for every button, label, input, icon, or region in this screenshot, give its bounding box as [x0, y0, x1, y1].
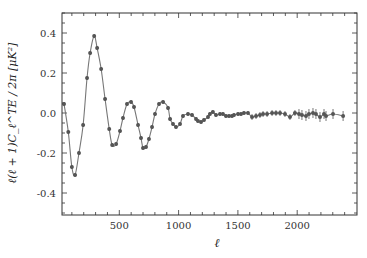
data-point — [77, 151, 81, 155]
data-point — [166, 106, 170, 110]
data-point — [168, 117, 172, 121]
y-tick-label: 0.4 — [40, 28, 56, 39]
data-point — [261, 112, 265, 116]
y-tick-labels: 0.40.20.0-0.2-0.4 — [37, 28, 56, 199]
data-point — [132, 105, 136, 109]
data-point — [307, 112, 311, 116]
data-point — [153, 112, 157, 116]
data-point — [250, 115, 254, 119]
y-tick-label: -0.2 — [37, 148, 56, 159]
data-point — [178, 122, 182, 126]
te-power-spectrum-chart: 0.40.20.0-0.2-0.4 500100015002000 ℓ ℓ(ℓ … — [0, 0, 367, 258]
data-point — [341, 114, 345, 118]
data-point — [186, 112, 190, 116]
data-point — [246, 111, 250, 115]
data-point — [314, 112, 318, 116]
data-point — [136, 123, 140, 127]
x-tick-label: 1500 — [225, 220, 250, 231]
data-point — [81, 123, 85, 127]
data-point — [99, 67, 103, 71]
data-point — [150, 125, 154, 129]
y-tick-label: 0.0 — [40, 108, 56, 119]
data-point — [62, 102, 66, 106]
data-point — [147, 137, 151, 141]
data-point — [278, 111, 282, 115]
data-point — [324, 114, 328, 118]
x-tick-label: 1000 — [166, 220, 191, 231]
data-point — [92, 34, 96, 38]
y-tick-label: -0.4 — [37, 188, 56, 199]
data-point — [73, 173, 77, 177]
data-point — [139, 136, 143, 140]
data-point — [214, 113, 218, 117]
data-point — [129, 100, 133, 104]
data-point — [118, 129, 122, 133]
x-tick-label: 500 — [110, 220, 129, 231]
data-point — [265, 112, 269, 116]
data-point — [174, 125, 178, 129]
data-point — [254, 114, 258, 118]
data-point — [125, 102, 129, 106]
data-point — [85, 76, 89, 80]
y-tick-label: 0.2 — [40, 68, 56, 79]
data-point — [70, 165, 74, 169]
data-point — [103, 97, 107, 101]
data-point — [121, 116, 125, 120]
data-point — [88, 51, 92, 55]
data-point — [211, 110, 215, 114]
data-point — [190, 113, 194, 117]
data-point — [274, 111, 278, 115]
data-point — [110, 143, 114, 147]
data-point — [318, 115, 322, 119]
fit-curve — [64, 36, 343, 176]
x-tick-labels: 500100015002000 — [110, 220, 310, 231]
data-point — [107, 127, 111, 131]
data-point — [181, 114, 185, 118]
data-points — [62, 34, 345, 177]
y-axis-label: ℓ(ℓ + 1)C_ℓ^TE / 2π [μK²] — [6, 42, 19, 184]
data-point — [270, 111, 274, 115]
data-point — [171, 122, 175, 126]
data-point — [202, 118, 206, 122]
data-point — [144, 145, 148, 149]
data-point — [157, 102, 161, 106]
x-tick-label: 2000 — [284, 220, 309, 231]
data-point — [288, 115, 292, 119]
data-point — [95, 46, 99, 50]
data-point — [232, 113, 236, 117]
data-point — [293, 111, 297, 115]
x-axis-label: ℓ — [215, 236, 220, 250]
data-point — [283, 112, 287, 116]
data-point — [242, 111, 246, 115]
data-point — [114, 142, 118, 146]
data-point — [66, 130, 70, 134]
data-point — [300, 113, 304, 117]
data-point — [161, 100, 165, 104]
data-point — [331, 112, 335, 116]
